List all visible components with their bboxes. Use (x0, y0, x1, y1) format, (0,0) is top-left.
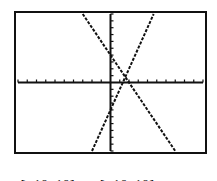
x-range-label: x:[−10, 10] (89, 177, 154, 181)
y-range-label: y:[−10, 10] (9, 177, 74, 181)
window-caption: y:[−10, 10]x:[−10, 10] (2, 160, 154, 181)
calculator-graph-screen (0, 0, 217, 181)
